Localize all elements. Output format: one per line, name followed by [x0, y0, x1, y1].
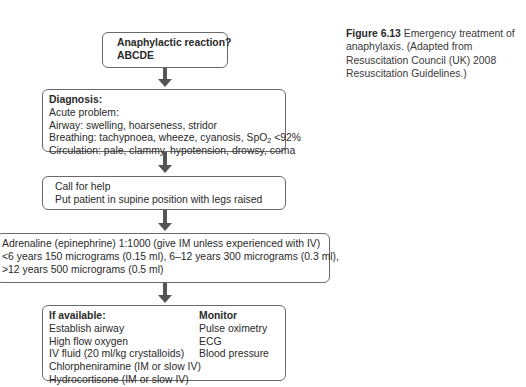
diagnosis-line: Airway: swelling, hoarseness, stridor	[49, 120, 285, 133]
breathing-prefix: Breathing: tachypnoea, wheeze, cyanosis,…	[49, 132, 267, 143]
monitor-title: Monitor	[199, 310, 269, 323]
figure-label: Figure 6.13	[346, 28, 401, 39]
call-for-help-box: Call for help Put patient in supine posi…	[42, 176, 286, 210]
monitor-column: Monitor Pulse oximetry ECG Blood pressur…	[199, 310, 269, 361]
adrenaline-line: <6 years 150 micrograms (0.15 ml), 6–12 …	[2, 251, 329, 264]
if-available-item: Chlorpheniramine (IM or slow IV)	[49, 361, 201, 374]
anaphylactic-reaction-box: Anaphylactic reaction? ABCDE	[102, 32, 228, 68]
diagnosis-title: Diagnosis:	[49, 94, 285, 107]
call-for-help-line: Put patient in supine position with legs…	[55, 194, 285, 207]
treatment-monitor-box: If available: Establish airway High flow…	[42, 305, 286, 381]
arrow-down-icon	[158, 68, 172, 88]
arrow-down-icon	[158, 152, 172, 174]
arrow-down-icon	[158, 210, 172, 232]
box1-line: ABCDE	[117, 50, 227, 63]
adrenaline-line: >12 years 500 micrograms (0.5 ml)	[2, 264, 329, 277]
if-available-item: High flow oxygen	[49, 336, 201, 349]
diagnosis-breathing-line: Breathing: tachypnoea, wheeze, cyanosis,…	[49, 132, 285, 145]
if-available-title: If available:	[49, 310, 201, 323]
figure-caption: Figure 6.13 Emergency treatment of anaph…	[346, 27, 526, 80]
monitor-item: ECG	[199, 336, 269, 349]
monitor-item: Pulse oximetry	[199, 323, 269, 336]
if-available-column: If available: Establish airway High flow…	[49, 310, 201, 387]
breathing-suffix: <92%	[271, 132, 301, 143]
if-available-item: IV fluid (20 ml/kg crystalloids)	[49, 348, 201, 361]
box1-line: Anaphylactic reaction?	[117, 37, 227, 50]
diagnosis-box: Diagnosis: Acute problem: Airway: swelli…	[42, 89, 286, 152]
arrow-down-icon	[158, 283, 172, 304]
if-available-item: Hydrocortisone (IM or slow IV)	[49, 374, 201, 387]
monitor-item: Blood pressure	[199, 348, 269, 361]
adrenaline-box: Adrenaline (epinephrine) 1:1000 (give IM…	[0, 233, 330, 283]
adrenaline-line: Adrenaline (epinephrine) 1:1000 (give IM…	[2, 238, 329, 251]
if-available-item: Establish airway	[49, 323, 201, 336]
diagnosis-line: Acute problem:	[49, 107, 285, 120]
call-for-help-line: Call for help	[55, 181, 285, 194]
